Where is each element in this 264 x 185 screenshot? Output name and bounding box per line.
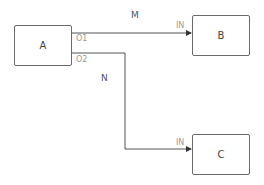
node-b[interactable]: B bbox=[192, 15, 250, 56]
node-c-label: C bbox=[218, 149, 225, 160]
node-a-label: A bbox=[40, 40, 47, 51]
edge-n-label: N bbox=[101, 74, 108, 83]
port-o2-label: O2 bbox=[76, 56, 87, 64]
edge-n-line[interactable] bbox=[71, 53, 191, 149]
node-b-label: B bbox=[218, 30, 225, 41]
edge-m-label: M bbox=[131, 11, 139, 20]
port-in-b-label: IN bbox=[176, 22, 184, 30]
node-c[interactable]: C bbox=[192, 134, 250, 175]
port-o1-label: O1 bbox=[76, 35, 87, 43]
node-a[interactable]: A bbox=[14, 25, 72, 66]
port-in-c-label: IN bbox=[176, 139, 184, 147]
